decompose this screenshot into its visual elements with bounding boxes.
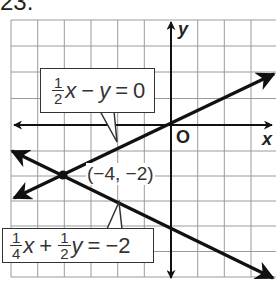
fraction-half: 1 2 <box>52 75 64 106</box>
rhs-value: 0 <box>133 78 145 104</box>
equation-box-line-1: 1 2 x − y = 0 <box>40 68 155 113</box>
equals-sign: = <box>88 233 101 259</box>
intersection-point <box>59 171 68 180</box>
fraction-half: 1 2 <box>58 230 70 261</box>
x-axis-label: x <box>262 129 272 150</box>
y-axis-label: y <box>178 19 188 40</box>
coordinate-graph: 23. y x O (−4, −2) 1 2 x − y = 0 1 4 x +… <box>0 0 276 282</box>
var-x: x <box>65 78 76 104</box>
equation-box-line-2: 1 4 x + 1 2 y = −2 <box>2 228 154 263</box>
rhs-value: −2 <box>105 233 130 259</box>
intersection-label: (−4, −2) <box>86 163 155 185</box>
fraction-denominator: 2 <box>58 246 70 261</box>
fraction-denominator: 2 <box>52 91 64 106</box>
origin-label: O <box>176 127 190 148</box>
fraction-numerator: 1 <box>10 230 22 246</box>
operator: + <box>39 233 52 259</box>
problem-number: 23. <box>0 0 33 16</box>
fraction-numerator: 1 <box>52 75 64 91</box>
var-x: x <box>23 233 34 259</box>
fraction-quarter: 1 4 <box>10 230 22 261</box>
var-y: y <box>99 78 110 104</box>
fraction-denominator: 4 <box>10 246 22 261</box>
equals-sign: = <box>115 78 128 104</box>
operator: − <box>81 78 94 104</box>
fraction-numerator: 1 <box>58 230 70 246</box>
callout-tail-bottom <box>107 202 122 229</box>
callout-tail-top <box>100 111 117 142</box>
var-y: y <box>72 233 83 259</box>
